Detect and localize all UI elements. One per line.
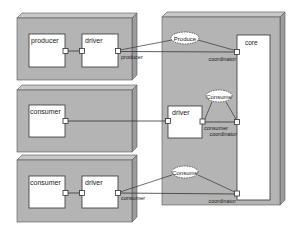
collaboration-consume-middle[interactable]: Consume (206, 90, 232, 102)
component-consumer-label: consumer (30, 108, 61, 115)
component-driver-label: driver (85, 37, 103, 44)
port-core-driver-consumer[interactable] (200, 119, 205, 124)
collaboration-produce[interactable]: Produce (171, 32, 199, 44)
port-driver-consumer[interactable] (116, 191, 121, 196)
component-core[interactable] (237, 35, 270, 200)
port-label-producer: producer (121, 54, 143, 60)
port-driver-producer[interactable] (116, 49, 121, 54)
port-label-coordinator: coordinator (208, 56, 236, 62)
component-producer-label: producer (31, 37, 59, 45)
port-core-coordinator-middle[interactable] (235, 120, 240, 125)
deployment-diagram: producer driver consumer consumer driver… (0, 0, 300, 235)
port-label-consumer: consumer (121, 195, 145, 201)
collaboration-consume-label: Consume (206, 94, 232, 100)
port-producer-out[interactable] (63, 49, 68, 54)
component-driver-label: driver (172, 109, 190, 116)
collaboration-consume-bottom[interactable]: Consume (172, 166, 198, 178)
component-driver-label: driver (85, 179, 103, 186)
port-label-coordinator: coordinator (208, 198, 236, 204)
collaboration-produce-label: Produce (174, 36, 197, 42)
port-core-coordinator-bottom[interactable] (235, 191, 240, 196)
port-driver-in[interactable] (80, 49, 85, 54)
port-label-coordinator: coordinator (209, 131, 237, 137)
port-core-coordinator-top[interactable] (235, 50, 240, 55)
collaboration-consume-label: Consume (172, 170, 198, 176)
port-core-driver-in[interactable] (166, 119, 171, 124)
port-consumer-out[interactable] (63, 119, 68, 124)
component-core-label: core (245, 39, 258, 46)
component-consumer-label: consumer (30, 179, 61, 186)
port-driver-in[interactable] (80, 191, 85, 196)
port-consumer-out[interactable] (63, 191, 68, 196)
